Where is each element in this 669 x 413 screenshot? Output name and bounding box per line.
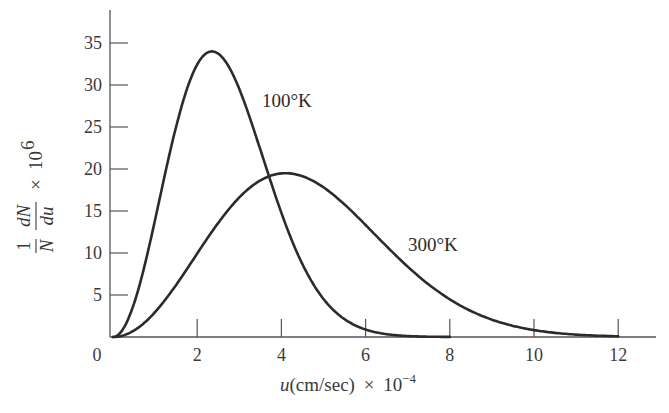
x-axis-title: u(cm/sec) × 10−4 xyxy=(280,371,416,396)
label-300K: 300°K xyxy=(408,234,458,255)
x-tick-label: 6 xyxy=(361,345,370,365)
y-tick-label: 10 xyxy=(84,243,102,263)
curve-300K xyxy=(113,173,618,337)
maxwell-distribution-chart: 5101520253035 024681012 100°K 300°K u(cm… xyxy=(0,0,669,413)
x-tick-label: 10 xyxy=(525,345,543,365)
svg-text:10: 10 xyxy=(25,151,46,170)
svg-text:du: du xyxy=(36,207,57,226)
svg-text:×: × xyxy=(25,179,46,190)
y-tick-label: 15 xyxy=(84,201,102,221)
y-tick-label: 35 xyxy=(84,33,102,53)
label-100K: 100°K xyxy=(262,90,312,111)
x-tick-label: 0 xyxy=(93,345,102,365)
x-tick-label: 8 xyxy=(445,345,454,365)
x-ticks: 024681012 xyxy=(93,319,628,365)
y-axis-title: 1 N dN du × 10 6 xyxy=(13,141,57,254)
y-tick-label: 30 xyxy=(84,75,102,95)
svg-text:1: 1 xyxy=(13,241,34,251)
y-tick-label: 20 xyxy=(84,159,102,179)
svg-text:N: N xyxy=(36,238,57,253)
svg-text:dN: dN xyxy=(13,204,34,228)
y-ticks: 5101520253035 xyxy=(84,33,128,305)
x-tick-label: 12 xyxy=(609,345,627,365)
x-tick-label: 4 xyxy=(277,345,286,365)
y-tick-label: 5 xyxy=(93,285,102,305)
svg-text:6: 6 xyxy=(17,141,38,151)
y-tick-label: 25 xyxy=(84,117,102,137)
axes xyxy=(110,10,656,337)
x-tick-label: 2 xyxy=(193,345,202,365)
